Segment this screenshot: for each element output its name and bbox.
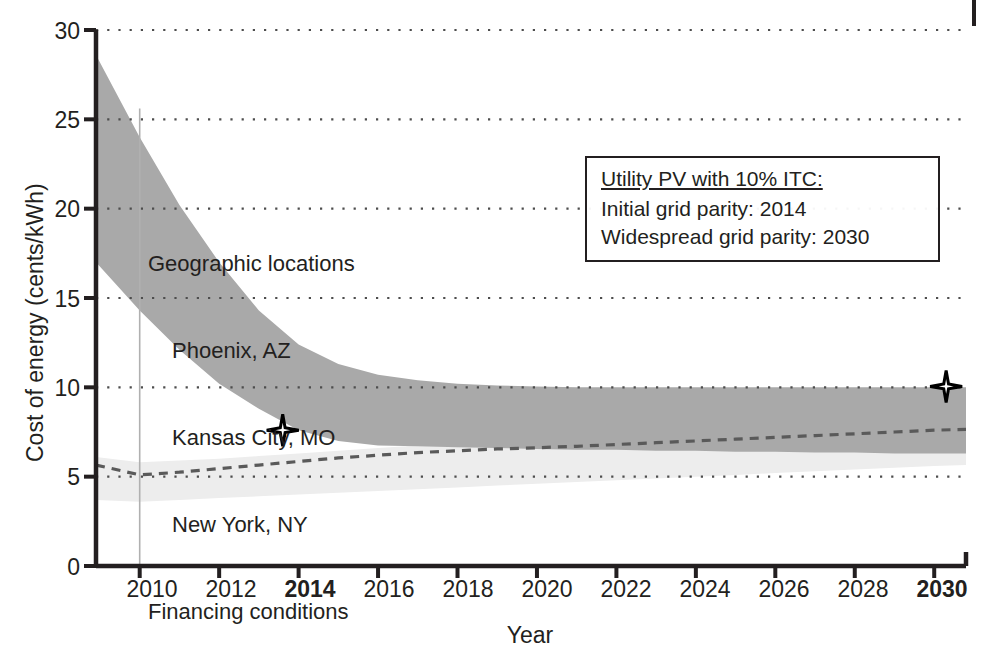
y-axis-title: Cost of energy (cents/kWh) — [22, 183, 49, 462]
legend-title: Utility PV with 10% ITC: — [601, 167, 924, 191]
y-tick-label: 30 — [28, 18, 80, 45]
annotation-block: Geographic locations Phoenix, AZ Kansas … — [148, 191, 355, 668]
legend-box: Utility PV with 10% ITC: Initial grid pa… — [585, 156, 940, 262]
y-tick-label: 25 — [28, 107, 80, 134]
annotation-line-financing-conditions: Financing conditions — [148, 597, 355, 626]
y-tick-label: 5 — [28, 464, 80, 491]
legend-initial-grid-parity: Initial grid parity: 2014 — [601, 195, 924, 223]
page-edge-mark — [972, 0, 976, 26]
annotation-line-geographic-locations: Geographic locations — [148, 249, 355, 278]
annotation-line-new-york: New York, NY — [148, 510, 355, 539]
y-tick-label: 0 — [28, 554, 80, 581]
annotation-line-kansas-city: Kansas City, MO — [148, 423, 355, 452]
figure-root: 30 25 20 15 10 5 0 Cost of energy (cents… — [0, 0, 997, 668]
legend-widespread-grid-parity: Widespread grid parity: 2030 — [601, 223, 924, 251]
x-tick-label-2030: 2030 — [887, 576, 997, 603]
annotation-line-phoenix: Phoenix, AZ — [148, 336, 355, 365]
x-axis-title: Year — [430, 622, 630, 649]
